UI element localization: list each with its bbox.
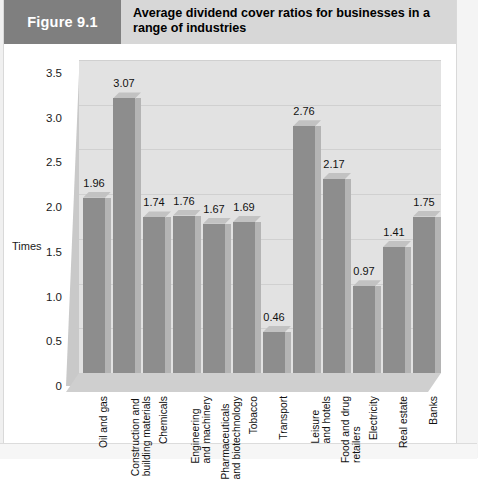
bar-value-label: 1.76 — [173, 195, 194, 207]
bar-front-face — [143, 217, 165, 373]
x-axis-label: Construction andbuilding materials — [130, 396, 153, 476]
bar-side-face — [435, 217, 441, 374]
bar-value-label: 1.75 — [413, 196, 434, 208]
bar-value-label: 1.67 — [203, 203, 224, 215]
bar-side-face — [255, 222, 261, 373]
bar-side-face — [285, 332, 291, 373]
figure-number-label: Figure 9.1 — [4, 0, 121, 44]
bar-front-face — [203, 224, 225, 373]
x-axis-label: Food and drugretailers — [340, 396, 363, 463]
x-axis-labels: Oil and gasConstruction andbuilding mate… — [66, 396, 441, 483]
bar-side-face — [405, 247, 411, 373]
bar: 0.46 — [263, 332, 285, 373]
bar-value-label: 0.46 — [263, 311, 284, 323]
y-axis-tick-label: 1.0 — [32, 291, 62, 303]
bar-value-label: 2.76 — [293, 105, 314, 117]
bar-value-label: 3.07 — [113, 77, 134, 89]
bar-front-face — [383, 247, 405, 373]
y-axis-tick-label: 3.0 — [32, 112, 62, 124]
bar: 1.74 — [143, 217, 165, 373]
bar: 1.75 — [413, 217, 435, 374]
bar-chart: Times 00.51.01.52.02.53.03.5 1.963.071.7… — [4, 44, 456, 443]
bar-side-face — [345, 179, 351, 373]
bar-value-label: 1.69 — [233, 201, 254, 213]
bar: 2.76 — [293, 126, 315, 373]
x-axis-label: Real estate — [398, 396, 409, 448]
y-axis-tick-label: 0 — [32, 380, 62, 392]
bar-value-label: 1.96 — [83, 177, 104, 189]
x-axis-label: Tobacco — [248, 396, 259, 434]
bar-front-face — [83, 198, 105, 373]
bar-side-face — [195, 216, 201, 373]
bar-front-face — [293, 126, 315, 373]
y-axis-tick-label: 2.0 — [32, 201, 62, 213]
bar-value-label: 1.41 — [383, 226, 404, 238]
page-edge-right — [456, 0, 478, 458]
y-axis-tick-label: 2.5 — [32, 156, 62, 168]
x-axis-label: Transport — [278, 396, 289, 440]
bar-side-face — [165, 217, 171, 373]
bar-side-face — [375, 286, 381, 373]
x-axis-label: Electricity — [368, 396, 379, 440]
y-axis-ticks: 00.51.01.52.02.53.03.5 — [26, 60, 62, 392]
x-axis-label: Pharmaceuticalsand biotechnology — [220, 396, 243, 480]
x-axis-label: Leisureand hotels — [310, 396, 333, 444]
x-axis-label: Chemicals — [158, 396, 169, 444]
bar: 1.76 — [173, 216, 195, 373]
bar: 3.07 — [113, 98, 135, 373]
bar: 1.67 — [203, 224, 225, 373]
figure-header: Figure 9.1 Average dividend cover ratios… — [4, 0, 456, 44]
bar-value-label: 2.17 — [323, 158, 344, 170]
bar-front-face — [173, 216, 195, 373]
x-axis-label: Oil and gas — [98, 396, 109, 448]
bar-side-face — [135, 98, 141, 373]
y-axis-tick-label: 3.5 — [32, 67, 62, 79]
bar-front-face — [263, 332, 285, 373]
bars-layer: 1.963.071.741.761.671.690.462.762.170.97… — [66, 60, 441, 392]
bar: 1.41 — [383, 247, 405, 373]
bar: 1.96 — [83, 198, 105, 373]
bar-side-face — [105, 198, 111, 373]
bar-front-face — [113, 98, 135, 373]
bar-front-face — [233, 222, 255, 373]
bar-value-label: 0.97 — [353, 265, 374, 277]
figure-title: Average dividend cover ratios for busine… — [121, 0, 456, 44]
bar-side-face — [315, 126, 321, 373]
bar: 1.69 — [233, 222, 255, 373]
bar: 0.97 — [353, 286, 375, 373]
y-axis-tick-label: 1.5 — [32, 246, 62, 258]
bar-front-face — [413, 217, 435, 374]
bar-front-face — [353, 286, 375, 373]
bar-value-label: 1.74 — [143, 196, 164, 208]
bar: 2.17 — [323, 179, 345, 373]
bar-front-face — [323, 179, 345, 373]
bar-side-face — [225, 224, 231, 373]
x-axis-label: Engineeringand machinery — [190, 396, 213, 464]
y-axis-tick-label: 0.5 — [32, 335, 62, 347]
x-axis-label: Banks — [428, 396, 439, 425]
